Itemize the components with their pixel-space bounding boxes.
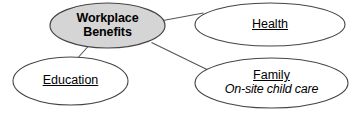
node-ellipse-education[interactable] xyxy=(13,57,128,105)
node-ellipse-health[interactable] xyxy=(195,3,345,46)
connector-center-to-family xyxy=(152,43,210,71)
concept-map-diagram: Workplace Benefits Health Education Fami… xyxy=(0,0,357,114)
node-ellipse-workplace-benefits[interactable] xyxy=(50,3,165,48)
diagram-shapes-layer xyxy=(0,0,357,114)
node-ellipse-family[interactable] xyxy=(195,58,348,108)
